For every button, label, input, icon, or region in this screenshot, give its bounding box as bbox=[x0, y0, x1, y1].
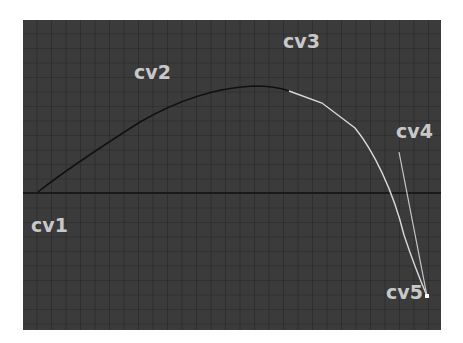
cv5-point[interactable] bbox=[425, 294, 429, 298]
cv4-label: cv4 bbox=[396, 122, 433, 141]
stage: cv1 cv2 cv3 cv4 cv5 bbox=[0, 0, 463, 343]
cv1-label: cv1 bbox=[31, 216, 68, 235]
cv5-label: cv5 bbox=[386, 283, 423, 302]
viewport-canvas[interactable] bbox=[23, 20, 441, 330]
cv2-label: cv2 bbox=[134, 63, 171, 82]
grid bbox=[23, 20, 441, 330]
modeling-viewport[interactable]: cv1 cv2 cv3 cv4 cv5 bbox=[23, 20, 441, 330]
cv3-label: cv3 bbox=[283, 32, 320, 51]
